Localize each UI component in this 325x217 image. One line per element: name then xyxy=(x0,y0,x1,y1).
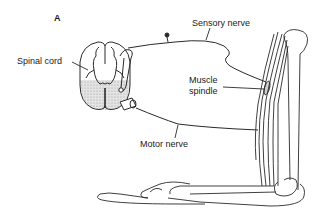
humerus-shaft xyxy=(284,35,290,180)
muscle-spindle-label-line2: spindle xyxy=(189,86,218,96)
dorsal-root-ganglion-cell xyxy=(165,33,169,37)
spinal-cord-label: Spinal cord xyxy=(17,56,62,66)
sensory-nerve-leader xyxy=(206,28,210,40)
gray-matter-horn-left xyxy=(86,70,94,78)
spinal-cord-lower-white-matter xyxy=(80,80,105,110)
biceps-muscle-2 xyxy=(268,36,285,186)
panel-label: A xyxy=(54,13,61,23)
muscle-spindle-leader xyxy=(223,87,264,89)
thumb xyxy=(150,188,162,192)
stretch-reflex-diagram xyxy=(0,0,325,217)
motor-nerve xyxy=(136,108,258,130)
dorsal-root-ganglion-stalk xyxy=(167,37,168,42)
forearm-ulna xyxy=(168,184,305,206)
biceps-muscle-1 xyxy=(263,34,282,186)
sensory-nerve-label: Sensory nerve xyxy=(192,18,250,28)
interneuron-synapse xyxy=(119,88,123,92)
biceps-muscle-5 xyxy=(255,34,274,160)
forearm-radius-inner xyxy=(190,192,276,194)
biceps-muscle-4 xyxy=(278,46,288,186)
motor-nerve-label: Motor nerve xyxy=(140,139,188,149)
muscle-spindle-label-line1: Muscle xyxy=(189,75,218,85)
motor-nerve-leader xyxy=(175,125,178,138)
